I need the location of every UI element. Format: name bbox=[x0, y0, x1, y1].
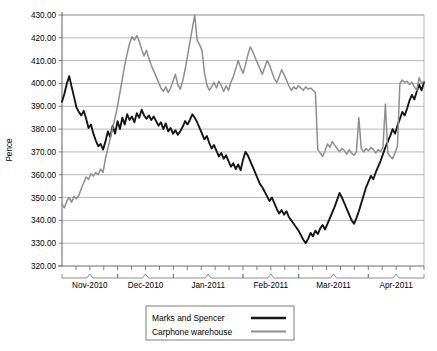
x-group-label: Feb-2011 bbox=[254, 281, 289, 290]
legend-label: Marks and Spencer bbox=[152, 313, 225, 323]
x-group-label: Nov-2010 bbox=[72, 281, 108, 290]
chart-legend: Marks and SpencerCarphone warehouse bbox=[146, 306, 294, 340]
y-tick-label: 390.00 bbox=[31, 102, 56, 111]
y-tick-label: 420.00 bbox=[31, 34, 56, 43]
y-tick-label: 370.00 bbox=[31, 148, 56, 157]
x-group-brace bbox=[118, 274, 174, 278]
x-group-label: Jan-2011 bbox=[191, 281, 225, 290]
x-group-brace bbox=[243, 274, 299, 278]
y-tick-label: 320.00 bbox=[31, 262, 56, 271]
x-group-label: Mar-2011 bbox=[316, 281, 351, 290]
x-group-brace bbox=[299, 274, 369, 278]
plot-frame bbox=[58, 12, 424, 266]
x-group-label: Dec-2010 bbox=[128, 281, 164, 290]
x-group-brace bbox=[62, 274, 118, 278]
y-tick-label: 400.00 bbox=[31, 79, 56, 88]
y-tick-label: 360.00 bbox=[31, 171, 56, 180]
stock-price-line-chart: 430.00420.00410.00400.00390.00380.00370.… bbox=[0, 0, 437, 351]
y-tick-label: 380.00 bbox=[31, 125, 56, 134]
y-tick-label: 350.00 bbox=[31, 194, 56, 203]
x-group-brace bbox=[368, 274, 424, 278]
x-group-label: Apr-2011 bbox=[380, 281, 414, 290]
y-tick-label: 410.00 bbox=[31, 57, 56, 66]
y-tick-label: 430.00 bbox=[31, 11, 56, 20]
x-axis-group-labels: Nov-2010Dec-2010Jan-2011Feb-2011Mar-2011… bbox=[72, 281, 413, 290]
gridlines bbox=[59, 15, 425, 266]
x-axis-tickmarks bbox=[76, 266, 424, 270]
y-axis-title: Pence bbox=[5, 138, 14, 162]
y-tick-label: 330.00 bbox=[31, 239, 56, 248]
x-group-brace bbox=[173, 274, 243, 278]
x-axis-group-braces bbox=[62, 274, 424, 278]
chart-canvas: 430.00420.00410.00400.00390.00380.00370.… bbox=[0, 0, 437, 351]
legend-label: Carphone warehouse bbox=[152, 327, 232, 337]
series-line-marks-and-spencer bbox=[62, 76, 424, 243]
y-tick-label: 340.00 bbox=[31, 216, 56, 225]
y-axis-tick-labels: 430.00420.00410.00400.00390.00380.00370.… bbox=[31, 11, 56, 271]
